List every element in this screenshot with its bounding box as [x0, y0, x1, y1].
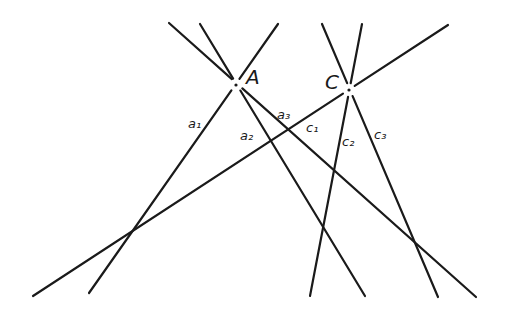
line-a2 — [200, 24, 233, 79]
point-A — [234, 83, 237, 86]
line-label-a3: a₃ — [277, 107, 290, 122]
line-c2 — [351, 24, 362, 83]
line-label-c1: c₁ — [306, 120, 318, 135]
points-layer: AC — [234, 65, 350, 94]
line-c1-long — [355, 25, 448, 86]
point-label-C: C — [325, 70, 339, 94]
line-c3 — [353, 96, 438, 297]
line-a3 — [169, 23, 232, 79]
line-label-c3: c₃ — [374, 127, 386, 142]
line-label-a2: a₂ — [240, 128, 253, 143]
line-a2 — [240, 91, 365, 296]
line-label-c2: c₂ — [342, 134, 354, 149]
pencil-line-diagram: AC a₁a₂a₃c₁c₂c₃ — [0, 0, 508, 317]
point-label-A: A — [244, 65, 260, 89]
line-label-a1: a₁ — [188, 116, 201, 131]
line-a1 — [89, 90, 231, 293]
point-C — [347, 88, 350, 91]
